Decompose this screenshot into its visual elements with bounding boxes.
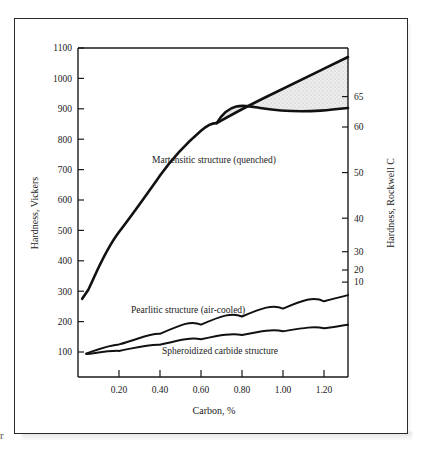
x-axis-ticks	[119, 370, 324, 377]
ytick-label: 700	[58, 165, 73, 175]
ytick-label: 500	[58, 226, 73, 236]
y-axis-title: Hardness, Vickers	[29, 177, 40, 250]
xtick-label: 0.20	[111, 385, 128, 395]
ytick-label: 600	[58, 195, 73, 205]
rockwell-tick-label: 20	[354, 265, 364, 275]
page-background: r	[0, 0, 434, 465]
left-axis-tick-labels: 1100 1000 900 800 700 600 500 400 300 20…	[53, 43, 72, 357]
right-axis-ticks	[342, 97, 348, 283]
rockwell-tick-label: 60	[354, 122, 364, 132]
xtick-label: 0.80	[234, 385, 251, 395]
page-edge-artifact: r	[0, 428, 10, 442]
chart-figure: 1100 1000 900 800 700 600 500 400 300 20…	[14, 18, 408, 434]
rockwell-tick-label: 40	[354, 214, 364, 224]
xtick-label: 0.60	[193, 385, 210, 395]
hardness-vs-carbon-chart: 1100 1000 900 800 700 600 500 400 300 20…	[14, 18, 408, 434]
left-axis-ticks	[78, 48, 84, 352]
ytick-label: 800	[58, 135, 73, 145]
right-axis-title: Hardness, Rockwell C	[385, 158, 396, 248]
curve-pearlitic	[86, 295, 348, 353]
annotation-martensitic: Martensitic structure (quenched)	[152, 155, 276, 166]
annotation-pearlitic: Pearlitic structure (air-cooled)	[131, 305, 245, 316]
x-axis-tick-labels: 0.20 0.40 0.60 0.80 1.00 1.20	[111, 385, 333, 395]
rockwell-tick-label: 65	[354, 92, 364, 102]
ytick-label: 300	[58, 287, 73, 297]
right-axis-tick-labels: 65 60 50 40 30 20 10	[354, 92, 364, 288]
x-axis-title: Carbon, %	[193, 405, 236, 416]
xtick-label: 1.00	[275, 385, 292, 395]
annotation-spheroidized: Spheroidized carbide structure	[162, 346, 278, 356]
ytick-label: 900	[58, 104, 73, 114]
rockwell-tick-label: 50	[354, 168, 364, 178]
ytick-label: 1000	[53, 74, 72, 84]
rockwell-tick-label: 10	[354, 277, 364, 287]
ytick-label: 400	[58, 256, 73, 266]
ytick-label: 1100	[53, 43, 72, 53]
xtick-label: 0.40	[152, 385, 169, 395]
xtick-label: 1.20	[316, 385, 333, 395]
ytick-label: 100	[58, 347, 73, 357]
ytick-label: 200	[58, 317, 73, 327]
rockwell-tick-label: 30	[354, 247, 364, 257]
